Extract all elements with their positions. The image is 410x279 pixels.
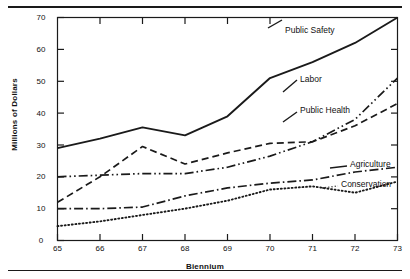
label-leader-lines <box>268 20 347 188</box>
x-tick-73: 73 <box>386 244 410 253</box>
y-tick-20: 20 <box>28 172 54 181</box>
x-tick-66: 66 <box>88 244 112 253</box>
x-tick-71: 71 <box>301 244 325 253</box>
series-label-public-safety: Public Safety <box>285 25 335 35</box>
series-label-public-health: Public Health <box>300 105 350 115</box>
series-line-labor <box>58 78 398 177</box>
y-tick-60: 60 <box>28 45 54 54</box>
right-axis-ticks <box>391 49 398 208</box>
series-label-conservation: Conservation <box>341 179 391 189</box>
x-axis-title: Biennium <box>150 262 260 271</box>
line-chart-plot <box>0 0 410 279</box>
series-label-agriculture: Agriculture <box>350 159 391 169</box>
y-tick-10: 10 <box>28 204 54 213</box>
x-tick-69: 69 <box>216 244 240 253</box>
x-tick-68: 68 <box>173 244 197 253</box>
y-tick-30: 30 <box>28 141 54 150</box>
x-tick-70: 70 <box>258 244 282 253</box>
series-label-labor: Labor <box>300 74 322 84</box>
y-tick-50: 50 <box>28 77 54 86</box>
x-tick-67: 67 <box>131 244 155 253</box>
x-tick-65: 65 <box>46 244 70 253</box>
y-tick-40: 40 <box>28 109 54 118</box>
y-axis-title: Millions of Dollars <box>10 70 19 160</box>
x-tick-72: 72 <box>343 244 367 253</box>
x-axis-ticks <box>58 234 398 241</box>
figure-container: 70 60 50 40 30 20 10 0 65 66 67 68 69 70… <box>0 0 410 279</box>
y-tick-70: 70 <box>28 13 54 22</box>
data-series-layer <box>58 18 398 227</box>
top-axis-ticks <box>100 18 270 25</box>
y-axis-ticks <box>58 18 65 241</box>
